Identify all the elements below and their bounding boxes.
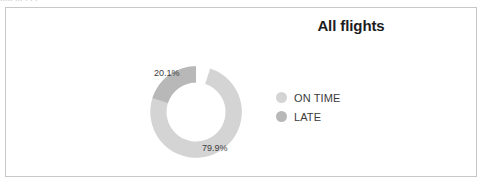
donut-chart-svg [134, 50, 258, 174]
legend-item-on-time[interactable]: ON TIME [276, 88, 396, 107]
donut-data-label-late: 20.1% [154, 68, 180, 79]
legend-swatch-circle-icon-late [276, 111, 287, 122]
legend-item-late[interactable]: LATE [276, 107, 396, 126]
legend-swatch-circle-icon-on-time [276, 92, 287, 103]
top-edge-text-artifact: ..... ... . . . [0, 0, 486, 6]
chart-title: All flights [256, 17, 446, 35]
chart-legend: ON TIME LATE [276, 88, 396, 126]
legend-label-on-time: ON TIME [294, 92, 340, 104]
donut-chart [134, 50, 258, 174]
screenshot-root: ..... ... . . . All flights 20.1% 79.9% … [0, 0, 486, 184]
top-edge-text-artifact-text: ..... ... . . . [0, 0, 38, 3]
legend-label-late: LATE [294, 111, 321, 123]
donut-data-label-on-time: 79.9% [202, 143, 228, 154]
chart-frame: All flights 20.1% 79.9% ON TIME [5, 7, 477, 177]
